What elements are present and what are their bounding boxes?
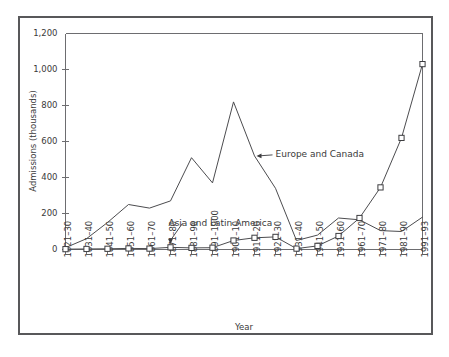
data-point-marker [147, 246, 152, 251]
annotation-label: Asia and Latin America [169, 218, 273, 228]
x-tick-label: 1851–60 [126, 221, 136, 258]
data-point-marker [63, 247, 68, 252]
data-point-marker [252, 235, 257, 240]
data-point-marker [399, 135, 404, 140]
y-tick-label: 1,200 [33, 28, 57, 38]
x-tick-label: 1991–93 [420, 221, 430, 258]
data-point-marker [126, 246, 131, 251]
data-point-marker [315, 243, 320, 248]
data-point-marker [84, 246, 89, 251]
data-point-marker [189, 245, 194, 250]
annotation-label: Europe and Canada [276, 149, 365, 159]
data-point-marker [357, 215, 362, 220]
x-tick-label: 1941–50 [315, 221, 325, 258]
data-point-marker [378, 185, 383, 190]
x-tick-label: 1841–50 [105, 221, 115, 258]
x-tick-label: 1981–90 [399, 221, 409, 258]
x-tick-label: 1861–70 [147, 221, 157, 258]
y-tick-label: 1,000 [33, 64, 57, 74]
data-point-marker [168, 245, 173, 250]
y-tick-label: 800 [41, 100, 57, 110]
x-tick-label: 1961–70 [357, 221, 367, 258]
annotation-1: Europe and Canada [257, 149, 365, 159]
y-axis-ticks: 02004006008001,0001,200 [33, 28, 69, 254]
x-axis-title: Year [234, 322, 254, 332]
line-chart: 02004006008001,0001,200 1821–301831–4018… [0, 0, 449, 357]
x-tick-label: 1971–80 [378, 221, 388, 258]
y-tick-label: 600 [41, 136, 57, 146]
data-point-marker [105, 246, 110, 251]
y-tick-label: 200 [41, 208, 57, 218]
x-tick-label: 1951–60 [336, 221, 346, 258]
data-point-marker [273, 234, 278, 239]
y-tick-label: 0 [52, 244, 57, 254]
figure-container: 02004006008001,0001,200 1821–301831–4018… [0, 0, 449, 357]
y-tick-label: 400 [41, 172, 57, 182]
data-point-marker [210, 245, 215, 250]
data-point-marker [231, 238, 236, 243]
annotation-arrowhead [257, 154, 262, 159]
y-axis-title: Admissions (thousands) [28, 90, 38, 191]
data-point-marker [294, 246, 299, 251]
data-point-marker [336, 233, 341, 238]
data-point-marker [420, 62, 425, 67]
